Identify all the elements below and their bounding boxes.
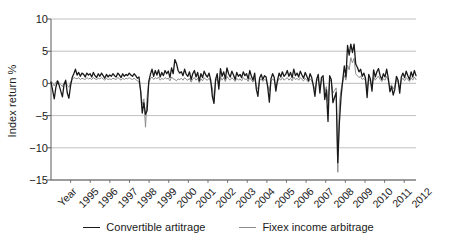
x-tick-label: 1995 <box>75 185 100 210</box>
x-tick-label: 2012 <box>409 185 434 210</box>
legend-line-icon <box>239 227 256 228</box>
x-tick-label: 2000 <box>174 185 199 210</box>
legend-label: Convertible artitrage <box>106 221 205 233</box>
x-tick-label: 2009 <box>350 185 375 210</box>
x-tick-label: 2011 <box>389 185 413 209</box>
x-tick-label: 2003 <box>232 185 257 210</box>
x-tick-label: 1996 <box>95 185 120 210</box>
x-tick-label: 2007 <box>311 185 336 210</box>
x-tick-label: 2008 <box>331 185 356 210</box>
chart-figure: Index return % 1050−5−10−15 Year19951996… <box>0 0 457 242</box>
x-tick-label: 2010 <box>370 185 395 210</box>
x-tick-label: 2004 <box>252 185 277 210</box>
legend-line-icon <box>83 227 100 228</box>
x-tick-label: 2006 <box>291 185 316 210</box>
x-tick-label: Year <box>55 185 78 208</box>
legend-item: Fixex income arbitrage <box>239 221 373 233</box>
x-tick-label: 1998 <box>134 185 159 210</box>
x-tick-label: 2001 <box>193 185 218 210</box>
legend-label: Fixex income arbitrage <box>262 221 373 233</box>
x-axis-ticks: Year199519961997199819992000200120022003… <box>0 0 457 242</box>
x-tick-label: 1999 <box>154 185 179 210</box>
chart-legend: Convertible artitrageFixex income arbitr… <box>0 217 457 237</box>
legend-item: Convertible artitrage <box>83 221 205 233</box>
x-tick-label: 2002 <box>213 185 238 210</box>
